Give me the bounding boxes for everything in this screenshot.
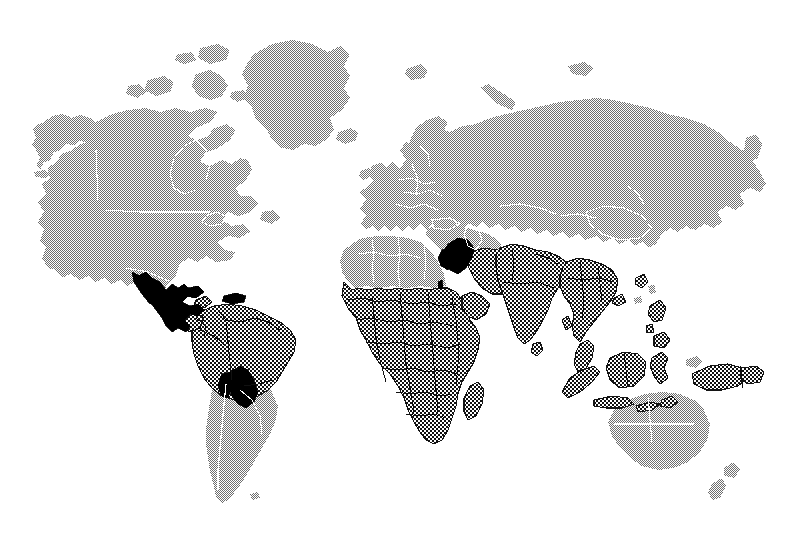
region-new-guinea-east: [740, 366, 764, 384]
region-philippines-islet: [646, 324, 654, 333]
world-distribution-map-figure: Not affected / no data Endemic area High…: [0, 0, 811, 551]
world-map-svg: [0, 0, 811, 551]
region-black-marker-nile: [438, 280, 443, 289]
